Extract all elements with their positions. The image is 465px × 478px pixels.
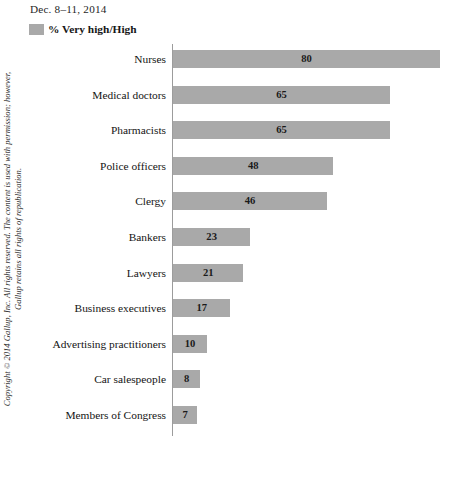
bar-track: 17: [173, 299, 230, 317]
bar-chart: Nurses80Medical doctors65Pharmacists65Po…: [0, 44, 465, 444]
bar-row[interactable]: Car salespeople8: [0, 370, 465, 388]
bar-category-label: Members of Congress: [6, 406, 166, 424]
bar-track: 80: [173, 50, 439, 68]
bar-track: 65: [173, 121, 389, 139]
bar-row[interactable]: Members of Congress7: [0, 406, 465, 424]
bar-fill[interactable]: 80: [173, 50, 439, 68]
bar-row[interactable]: Business executives17: [0, 299, 465, 317]
bar-value-label: 65: [173, 86, 389, 104]
bar-fill[interactable]: 7: [173, 406, 196, 424]
bar-category-label: Business executives: [6, 299, 166, 317]
bar-track: 21: [173, 264, 243, 282]
bar-track: 7: [173, 406, 196, 424]
bar-row[interactable]: Clergy46: [0, 192, 465, 210]
bar-track: 46: [173, 192, 326, 210]
bar-fill[interactable]: 17: [173, 299, 230, 317]
bar-category-label: Advertising practitioners: [6, 335, 166, 353]
legend-label: % Very high/High: [48, 23, 137, 35]
bar-row[interactable]: Pharmacists65: [0, 121, 465, 139]
bar-category-label: Bankers: [6, 228, 166, 246]
bar-row[interactable]: Lawyers21: [0, 264, 465, 282]
bar-track: 23: [173, 228, 250, 246]
bar-fill[interactable]: 10: [173, 335, 206, 353]
bar-row[interactable]: Bankers23: [0, 228, 465, 246]
bar-value-label: 23: [173, 228, 250, 246]
bar-value-label: 7: [173, 406, 196, 424]
bar-fill[interactable]: 65: [173, 86, 389, 104]
bar-fill[interactable]: 8: [173, 370, 200, 388]
bar-track: 65: [173, 86, 389, 104]
bar-category-label: Lawyers: [6, 264, 166, 282]
bar-value-label: 17: [173, 299, 230, 317]
legend-swatch-icon: [29, 24, 44, 35]
bar-fill[interactable]: 65: [173, 121, 389, 139]
bar-category-label: Clergy: [6, 192, 166, 210]
bar-value-label: 10: [173, 335, 206, 353]
bar-category-label: Nurses: [6, 50, 166, 68]
bar-value-label: 21: [173, 264, 243, 282]
bar-row[interactable]: Police officers48: [0, 157, 465, 175]
bar-category-label: Pharmacists: [6, 121, 166, 139]
bar-fill[interactable]: 21: [173, 264, 243, 282]
bar-track: 10: [173, 335, 206, 353]
bar-fill[interactable]: 48: [173, 157, 333, 175]
date-label: Dec. 8–11, 2014: [30, 3, 107, 15]
bar-value-label: 80: [173, 50, 439, 68]
bar-category-label: Police officers: [6, 157, 166, 175]
bar-fill[interactable]: 46: [173, 192, 326, 210]
bar-row[interactable]: Advertising practitioners10: [0, 335, 465, 353]
bar-category-label: Medical doctors: [6, 86, 166, 104]
bar-row[interactable]: Medical doctors65: [0, 86, 465, 104]
bar-value-label: 8: [173, 370, 200, 388]
bar-track: 48: [173, 157, 333, 175]
bar-fill[interactable]: 23: [173, 228, 250, 246]
bar-value-label: 46: [173, 192, 326, 210]
bar-value-label: 48: [173, 157, 333, 175]
bar-value-label: 65: [173, 121, 389, 139]
bar-category-label: Car salespeople: [6, 370, 166, 388]
chart-legend: % Very high/High: [29, 23, 137, 35]
bar-row[interactable]: Nurses80: [0, 50, 465, 68]
bar-track: 8: [173, 370, 200, 388]
